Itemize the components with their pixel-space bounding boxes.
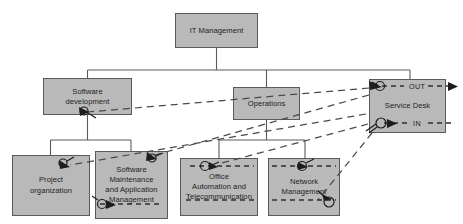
service-desk-out-label: OUT [409,82,425,91]
org-chart-diagram: IT Management Software development Opera… [0,0,463,224]
node-project-organization[interactable]: Project organization [12,155,90,216]
node-label-software-maintenance: Software Maintenance and Application Man… [103,165,159,206]
node-office-automation[interactable]: Office Automation and Telecommunication [180,158,258,216]
node-label-software-development: Software development [63,87,111,106]
node-label-office-automation: Office Automation and Telecommunication [184,172,254,203]
node-label-service-desk: Service Desk [383,101,432,111]
node-label-operations: Operations [246,99,288,109]
node-network-management[interactable]: Network Management [268,158,340,216]
node-label-project-organization: Project organization [28,175,74,195]
node-label-network-management: Network Management [280,177,329,197]
node-operations[interactable]: Operations [233,87,300,120]
node-software-maintenance[interactable]: Software Maintenance and Application Man… [95,151,168,219]
node-software-development[interactable]: Software development [43,78,132,115]
node-it-management[interactable]: IT Management [175,13,258,48]
service-desk-in-label: IN [413,119,421,128]
node-label-it-management: IT Management [188,26,246,36]
node-service-desk[interactable]: Service Desk [369,79,446,133]
